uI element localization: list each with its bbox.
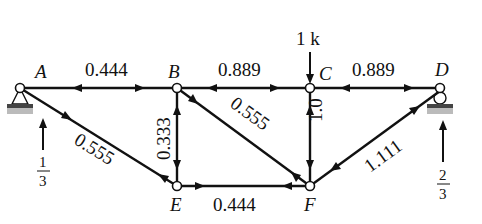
member-ef — [177, 182, 310, 190]
member-ab — [20, 84, 177, 92]
reaction-a-denominator: 3 — [39, 173, 47, 189]
reaction-fraction-d: 2 3 — [437, 167, 450, 202]
node-f — [306, 182, 315, 191]
force-label-cd: 0.889 — [352, 59, 395, 80]
node-label-f: F — [303, 194, 316, 215]
force-label-be: 0.333 — [153, 117, 174, 160]
member-cd — [310, 84, 440, 92]
reaction-arrow-a — [39, 118, 47, 150]
truss-diagram: A B C D E F 0.444 0.889 0.889 0.555 0.33… — [0, 0, 482, 224]
reaction-a-numerator: 1 — [39, 154, 47, 170]
node-label-d: D — [434, 59, 449, 80]
member-be — [173, 88, 181, 186]
node-c — [306, 84, 315, 93]
node-label-e: E — [169, 194, 182, 215]
force-label-ef: 0.444 — [213, 194, 256, 215]
roller-support-d — [427, 92, 453, 114]
node-label-a: A — [33, 61, 47, 82]
node-label-b: B — [168, 61, 180, 82]
force-label-bf: 0.555 — [227, 92, 274, 134]
reaction-fraction-a: 1 3 — [37, 154, 50, 189]
node-d — [436, 84, 445, 93]
force-label-cf: 1.0 — [305, 98, 326, 122]
member-bc — [177, 84, 310, 92]
reaction-d-numerator: 2 — [439, 167, 447, 183]
truss-svg: A B C D E F 0.444 0.889 0.889 0.555 0.33… — [0, 0, 482, 224]
node-e — [173, 182, 182, 191]
node-label-c: C — [319, 63, 332, 84]
force-label-fd: 1.111 — [360, 135, 406, 176]
force-label-ab: 0.444 — [85, 59, 128, 80]
load-arrow-c — [306, 52, 314, 84]
node-b — [173, 84, 182, 93]
load-label: 1 k — [296, 28, 320, 49]
reaction-arrow-d — [439, 120, 447, 162]
reaction-d-denominator: 3 — [439, 186, 447, 202]
force-label-bc: 0.889 — [218, 59, 261, 80]
node-a — [16, 84, 25, 93]
